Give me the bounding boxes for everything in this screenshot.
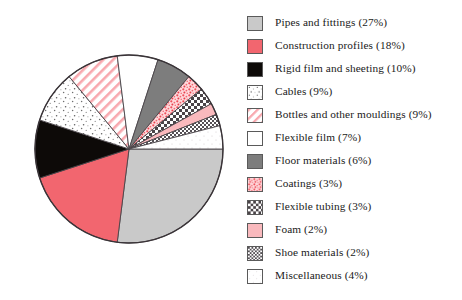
pie-slices [35, 55, 223, 243]
legend-item-coatings[interactable]: Coatings (3%) [244, 173, 342, 195]
legend-item-cables[interactable]: Cables (9%) [244, 81, 332, 103]
legend-swatch-shoe-materials [247, 246, 263, 261]
legend-label-construction-profiles: Construction profiles (18%) [275, 40, 405, 51]
legend-swatch-pipes-and-fittings [247, 16, 263, 31]
pie-slice-pipes-and-fittings[interactable] [117, 149, 223, 243]
legend-item-rigid-film-and-sheeting[interactable]: Rigid film and sheeting (10%) [244, 58, 416, 80]
legend-swatch-rigid-film-and-sheeting [247, 62, 263, 77]
legend-item-floor-materials[interactable]: Floor materials (6%) [244, 150, 371, 172]
legend-swatch-flexible-tubing [247, 200, 263, 215]
legend-label-pipes-and-fittings: Pipes and fittings (27%) [275, 17, 387, 28]
legend-swatch-floor-materials [247, 154, 263, 169]
pie-chart-svg [26, 46, 232, 252]
legend-label-shoe-materials: Shoe materials (2%) [275, 247, 369, 258]
legend-label-flexible-tubing: Flexible tubing (3%) [275, 201, 371, 212]
legend-label-bottles-and-other-mouldings: Bottles and other mouldings (9%) [275, 109, 432, 120]
legend-swatch-foam [247, 223, 263, 238]
legend-item-pipes-and-fittings[interactable]: Pipes and fittings (27%) [244, 12, 387, 34]
legend-label-coatings: Coatings (3%) [275, 178, 342, 189]
legend-swatch-bottles-and-other-mouldings [247, 108, 263, 123]
legend-item-miscellaneous[interactable]: Miscellaneous (4%) [244, 265, 368, 287]
legend-item-shoe-materials[interactable]: Shoe materials (2%) [244, 242, 369, 264]
legend-swatch-coatings [247, 177, 263, 192]
chart-legend: Pipes and fittings (27%) Construction pr… [244, 12, 460, 288]
legend-label-miscellaneous: Miscellaneous (4%) [275, 270, 368, 281]
pie-chart [26, 46, 232, 252]
legend-item-construction-profiles[interactable]: Construction profiles (18%) [244, 35, 405, 57]
legend-label-floor-materials: Floor materials (6%) [275, 155, 371, 166]
legend-item-bottles-and-other-mouldings[interactable]: Bottles and other mouldings (9%) [244, 104, 432, 126]
legend-swatch-miscellaneous [247, 269, 263, 284]
pie-chart-figure: Pipes and fittings (27%) Construction pr… [0, 0, 462, 300]
legend-label-cables: Cables (9%) [275, 86, 332, 97]
legend-label-flexible-film: Flexible film (7%) [275, 132, 361, 143]
legend-swatch-construction-profiles [247, 39, 263, 54]
legend-item-flexible-film[interactable]: Flexible film (7%) [244, 127, 361, 149]
legend-label-foam: Foam (2%) [275, 224, 327, 235]
legend-item-foam[interactable]: Foam (2%) [244, 219, 327, 241]
legend-swatch-cables [247, 85, 263, 100]
legend-label-rigid-film-and-sheeting: Rigid film and sheeting (10%) [275, 63, 416, 74]
legend-item-flexible-tubing[interactable]: Flexible tubing (3%) [244, 196, 371, 218]
legend-swatch-flexible-film [247, 131, 263, 146]
